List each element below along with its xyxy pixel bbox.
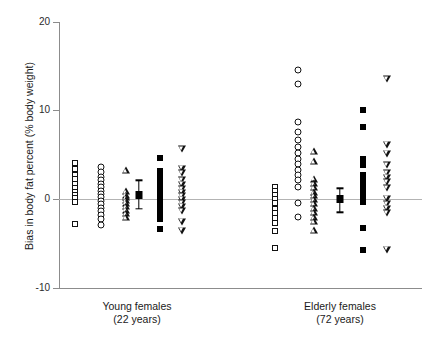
y-tick-label: 20: [0, 17, 50, 27]
x-group-name: Young females: [62, 300, 212, 313]
data-point-square-filled: [360, 199, 366, 205]
data-point-circle-open: [295, 128, 302, 135]
data-point-triangle-up: [310, 218, 318, 225]
data-point-triangle-down: [383, 141, 391, 148]
data-point-triangle-down: [178, 208, 186, 215]
mean-marker: [337, 195, 344, 203]
data-point-circle-open: [295, 184, 302, 191]
data-point-triangle-up: [310, 157, 318, 164]
data-point-circle-open: [295, 118, 302, 125]
x-group-sublabel: (72 years): [265, 313, 415, 326]
data-point-square-filled: [360, 162, 366, 168]
x-group-label-elderly: Elderly females (72 years): [265, 300, 415, 326]
y-axis-label: Bias in body fat percent (% body weight): [23, 41, 35, 271]
mean-marker: [136, 191, 143, 199]
y-tick: [53, 110, 59, 111]
data-point-square-filled: [360, 247, 366, 253]
y-tick: [53, 288, 59, 289]
data-point-square-open: [72, 160, 78, 166]
data-point-triangle-down: [383, 246, 391, 253]
data-point-triangle-down: [178, 146, 186, 153]
x-group-sublabel: (22 years): [62, 313, 212, 326]
data-point-square-filled: [157, 155, 163, 161]
data-point-square-open: [272, 245, 278, 251]
y-tick-label: 10: [0, 105, 50, 115]
data-point-triangle-down: [383, 76, 391, 83]
data-point-circle-open: [295, 136, 302, 143]
data-point-triangle-up: [122, 213, 130, 220]
data-point-square-open: [72, 221, 78, 227]
data-point-triangle-down: [178, 170, 186, 177]
data-point-triangle-down: [383, 162, 391, 169]
data-point-circle-open: [295, 199, 302, 206]
data-point-triangle-down: [383, 185, 391, 192]
data-point-triangle-up: [310, 227, 318, 234]
data-point-circle-open: [98, 221, 105, 228]
data-point-circle-open: [295, 213, 302, 220]
x-group-name: Elderly females: [265, 300, 415, 313]
data-point-square-filled: [157, 216, 163, 222]
x-group-label-young: Young females (22 years): [62, 300, 212, 326]
data-point-triangle-up: [310, 148, 318, 155]
data-point-triangle-down: [178, 219, 186, 226]
data-point-square-open: [272, 228, 278, 234]
data-point-circle-open: [295, 80, 302, 87]
data-point-circle-open: [295, 177, 302, 184]
y-tick: [53, 199, 59, 200]
data-point-square-open: [272, 220, 278, 226]
data-point-square-filled: [360, 225, 366, 231]
y-tick-label: -10: [0, 283, 50, 293]
data-point-triangle-up: [122, 166, 130, 173]
data-point-triangle-down: [383, 150, 391, 157]
y-tick-label: 0: [0, 194, 50, 204]
data-point-circle-open: [295, 67, 302, 74]
y-tick: [53, 22, 59, 23]
figure-body-fat-bias: Bias in body fat percent (% body weight)…: [0, 0, 426, 357]
data-point-square-filled: [360, 156, 366, 162]
y-axis-line: [59, 22, 60, 288]
data-point-triangle-down: [383, 210, 391, 217]
data-point-triangle-down: [178, 227, 186, 234]
error-bar-cap: [337, 188, 344, 189]
error-bar-cap: [337, 212, 344, 213]
data-point-square-open: [72, 166, 78, 172]
error-bar-cap: [136, 208, 143, 209]
data-point-square-filled: [360, 107, 366, 113]
zero-reference-line: [59, 199, 422, 200]
data-point-square-filled: [157, 226, 163, 232]
error-bar-cap: [136, 180, 143, 181]
data-point-square-filled: [360, 124, 366, 130]
x-axis-line: [59, 288, 422, 289]
data-point-square-open: [72, 199, 78, 205]
